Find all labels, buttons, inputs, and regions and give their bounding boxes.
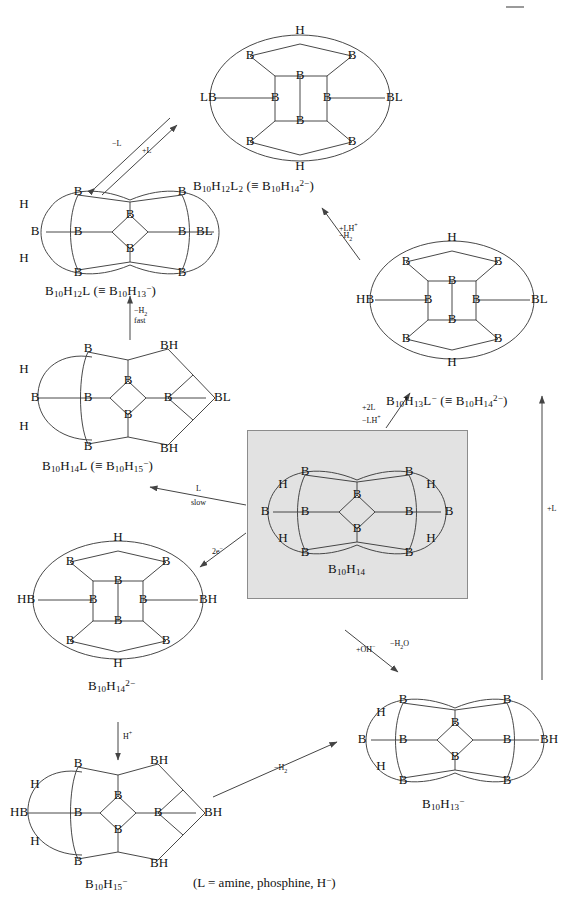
svg-text:B: B — [31, 389, 40, 404]
svg-text:B: B — [323, 89, 332, 104]
svg-text:B: B — [405, 463, 414, 478]
label-b10h14l: B10H14L (≡ B10H15−) — [42, 458, 153, 474]
svg-text:H: H — [19, 361, 28, 376]
structure-b10h12l2: H B B B B B B B B H LB BL — [200, 22, 403, 173]
svg-text:B: B — [448, 272, 457, 287]
svg-text:B: B — [358, 731, 367, 746]
svg-text:B: B — [246, 47, 255, 62]
label-b10h12l2: B10H12L2 (≡ B10H142−) — [193, 178, 314, 194]
svg-text:B: B — [301, 463, 310, 478]
svg-text:BL: BL — [214, 389, 231, 404]
svg-text:B: B — [114, 821, 123, 836]
svg-text:BH: BH — [199, 591, 217, 606]
svg-text:B: B — [246, 133, 255, 148]
arrow-label-minus-lh-plus: −LH+ — [362, 414, 381, 425]
arrow-label-plus-l-right: +L — [547, 505, 556, 513]
svg-text:B: B — [271, 89, 280, 104]
svg-text:H: H — [30, 833, 39, 848]
svg-text:B: B — [139, 591, 148, 606]
svg-text:B: B — [124, 372, 133, 387]
svg-text:H: H — [295, 22, 304, 37]
svg-text:H: H — [30, 776, 39, 791]
svg-text:B: B — [124, 406, 133, 421]
svg-text:B: B — [348, 133, 357, 148]
svg-text:BL: BL — [531, 291, 548, 306]
label-b10h15-anion: B10H15− — [85, 876, 128, 892]
svg-text:HB: HB — [17, 591, 35, 606]
svg-text:B: B — [353, 520, 362, 535]
svg-text:BH: BH — [204, 804, 222, 819]
svg-text:B: B — [114, 572, 123, 587]
svg-text:B: B — [126, 240, 135, 255]
svg-text:BL: BL — [196, 223, 213, 238]
svg-text:BH: BH — [160, 337, 178, 352]
svg-text:B: B — [74, 755, 83, 770]
svg-text:B: B — [399, 731, 408, 746]
svg-text:H: H — [447, 229, 456, 244]
arrow-label-minus-l: −L — [112, 140, 121, 148]
svg-text:B: B — [301, 503, 310, 518]
svg-text:B: B — [178, 223, 187, 238]
svg-text:B: B — [89, 591, 98, 606]
svg-text:B: B — [296, 112, 305, 127]
arrow-label-minus-h2-c: −H2 — [274, 764, 287, 774]
svg-text:B: B — [451, 714, 460, 729]
svg-text:B: B — [178, 264, 187, 279]
arrow-two-electron-reduction — [200, 533, 246, 567]
svg-text:B: B — [114, 612, 123, 627]
svg-text:B: B — [74, 853, 83, 868]
svg-text:H: H — [376, 758, 385, 773]
svg-text:B: B — [405, 544, 414, 559]
svg-text:B: B — [66, 553, 75, 568]
svg-text:H: H — [295, 158, 304, 173]
structure-b10h13-anion: B B B B B B B B B BH H H — [358, 691, 558, 787]
svg-text:H: H — [113, 655, 122, 670]
arrow-remove-add-L — [95, 118, 177, 195]
arrow-label-slow: slow — [191, 499, 206, 507]
svg-text:H: H — [376, 704, 385, 719]
svg-text:B: B — [114, 787, 123, 802]
arrow-label-2e-minus: 2e− — [212, 545, 223, 556]
svg-text:B: B — [74, 183, 83, 198]
svg-text:BL: BL — [386, 89, 403, 104]
structure-b10h15-anion: B B B B B B HB BH BH BH H H — [10, 752, 222, 870]
svg-text:B: B — [296, 67, 305, 82]
svg-text:B: B — [74, 223, 83, 238]
arrow-label-minus-h2-b: −H2 — [339, 232, 352, 242]
svg-text:B: B — [84, 340, 93, 355]
svg-text:H: H — [278, 530, 287, 545]
svg-text:H: H — [447, 354, 456, 369]
svg-text:B: B — [472, 291, 481, 306]
svg-text:B: B — [494, 253, 503, 268]
arrow-label-fast: fast — [134, 317, 146, 325]
arrow-label-plus-l: +L — [142, 147, 151, 155]
svg-text:B: B — [162, 632, 171, 647]
svg-text:B: B — [261, 503, 270, 518]
svg-text:B: B — [445, 503, 454, 518]
svg-text:B: B — [66, 632, 75, 647]
arrow-label-minus-h2o: −H2O — [390, 640, 409, 650]
svg-text:H: H — [278, 476, 287, 491]
svg-text:B: B — [162, 553, 171, 568]
structure-b10h12l: B B B B B B B B B BL H H — [19, 183, 219, 279]
svg-text:B: B — [503, 691, 512, 706]
label-b10h12l: B10H12L (≡ B10H13−) — [45, 283, 156, 299]
svg-text:B: B — [402, 330, 411, 345]
svg-text:B: B — [424, 291, 433, 306]
svg-text:B: B — [84, 438, 93, 453]
svg-text:BH: BH — [150, 752, 168, 767]
svg-text:B: B — [402, 253, 411, 268]
svg-text:B: B — [494, 330, 503, 345]
svg-text:B: B — [301, 544, 310, 559]
structure-b10h14-dianion: H B B B B B B B B H HB BH — [17, 529, 217, 670]
svg-text:B: B — [84, 389, 93, 404]
legend-ligand-definition: (L = amine, phosphine, H−) — [193, 875, 336, 891]
svg-text:LB: LB — [200, 89, 217, 104]
label-b10h14-dianion: B10H142− — [88, 678, 135, 694]
label-b10h13-anion: B10H13− — [422, 796, 465, 812]
svg-text:B: B — [164, 389, 173, 404]
svg-text:B: B — [31, 223, 40, 238]
svg-text:H: H — [19, 418, 28, 433]
svg-text:H: H — [426, 530, 435, 545]
svg-text:BH: BH — [150, 855, 168, 870]
